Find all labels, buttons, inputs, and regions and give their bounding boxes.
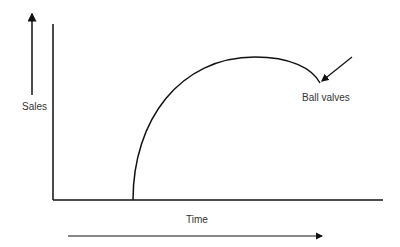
- life-cycle-diagram: [0, 0, 400, 247]
- y-axis-label: Sales: [22, 101, 47, 112]
- x-axis-label: Time: [186, 214, 208, 225]
- annotation-pointer-arrow: [322, 57, 352, 81]
- life-cycle-curve: [133, 57, 320, 200]
- ball-valves-annotation: Ball valves: [302, 92, 350, 103]
